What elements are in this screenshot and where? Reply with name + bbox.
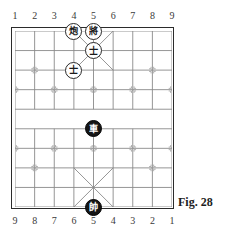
star-point-5 xyxy=(129,91,131,93)
piece-black-general-f5r0[interactable]: 將 xyxy=(85,23,102,40)
piece-glyph-advisor: 士 xyxy=(89,46,98,55)
star-point-3 xyxy=(51,86,53,88)
star-point-4 xyxy=(90,86,92,88)
file-label-bottom-4: 6 xyxy=(67,215,80,227)
star-point-dot-2 xyxy=(15,89,16,91)
star-point-13 xyxy=(149,165,151,167)
piece-advisor-f4r2[interactable]: 士 xyxy=(65,62,82,79)
star-point-9 xyxy=(95,150,97,152)
star-point-dot-7 xyxy=(15,147,16,149)
file-labels-top: 123456789 xyxy=(15,10,172,22)
star-point-11 xyxy=(169,145,171,147)
star-point-8 xyxy=(51,150,53,152)
file-label-bottom-5: 5 xyxy=(87,215,100,227)
file-label-top-4: 4 xyxy=(67,10,80,22)
star-point-0 xyxy=(31,71,33,73)
star-point-dot-11 xyxy=(171,147,172,149)
piece-advisor-f5r1[interactable]: 士 xyxy=(85,42,102,59)
xiangqi-board[interactable]: 炮將士士車帥 xyxy=(15,31,172,207)
star-point-1 xyxy=(154,67,156,69)
file-labels-bottom: 987654321 xyxy=(15,215,172,227)
star-point-13 xyxy=(149,169,151,171)
star-point-2 xyxy=(16,86,18,88)
star-point-10 xyxy=(129,145,131,147)
star-point-3 xyxy=(56,91,58,93)
star-point-1 xyxy=(149,71,151,73)
piece-glyph-chariot: 車 xyxy=(89,124,98,133)
star-point-2 xyxy=(16,91,18,93)
star-point-8 xyxy=(56,145,58,147)
star-point-12 xyxy=(31,165,33,167)
star-point-dot-12 xyxy=(34,167,36,169)
star-point-9 xyxy=(90,145,92,147)
star-point-dot-0 xyxy=(34,69,36,71)
piece-red-marshal-f5r9[interactable]: 帥 xyxy=(85,199,102,216)
star-point-dot-4 xyxy=(92,89,94,91)
star-point-4 xyxy=(95,86,97,88)
star-point-12 xyxy=(31,169,33,171)
star-point-6 xyxy=(169,86,171,88)
file-label-top-7: 7 xyxy=(126,10,139,22)
file-label-bottom-7: 3 xyxy=(126,215,139,227)
file-label-top-8: 8 xyxy=(146,10,159,22)
file-label-top-9: 9 xyxy=(166,10,179,22)
figure-caption: Fig. 28 xyxy=(178,195,213,210)
star-point-3 xyxy=(51,91,53,93)
star-point-0 xyxy=(36,67,38,69)
star-point-6 xyxy=(169,91,171,93)
board-grid-area: 炮將士士車帥 xyxy=(15,31,172,207)
file-label-bottom-9: 1 xyxy=(166,215,179,227)
star-point-5 xyxy=(129,86,131,88)
star-point-dot-6 xyxy=(171,89,172,91)
file-label-top-2: 2 xyxy=(28,10,41,22)
piece-glyph-advisor: 士 xyxy=(69,66,78,75)
file-label-bottom-8: 2 xyxy=(146,215,159,227)
star-point-8 xyxy=(56,150,58,152)
piece-glyph-cannon: 炮 xyxy=(69,26,78,35)
star-point-5 xyxy=(134,86,136,88)
star-point-9 xyxy=(95,145,97,147)
star-point-1 xyxy=(149,67,151,69)
star-point-5 xyxy=(134,91,136,93)
star-point-dot-1 xyxy=(151,69,153,71)
piece-glyph-red-marshal: 帥 xyxy=(89,202,98,211)
star-point-dot-3 xyxy=(53,89,55,91)
star-point-13 xyxy=(154,169,156,171)
star-point-4 xyxy=(95,91,97,93)
star-point-0 xyxy=(31,67,33,69)
star-point-0 xyxy=(36,71,38,73)
file-label-top-3: 3 xyxy=(48,10,61,22)
star-point-1 xyxy=(154,71,156,73)
file-label-bottom-1: 9 xyxy=(9,215,22,227)
star-point-3 xyxy=(56,86,58,88)
star-point-9 xyxy=(90,150,92,152)
star-point-10 xyxy=(134,150,136,152)
star-point-10 xyxy=(129,150,131,152)
star-point-4 xyxy=(90,91,92,93)
piece-cannon-f4r0[interactable]: 炮 xyxy=(65,23,82,40)
file-label-bottom-3: 7 xyxy=(48,215,61,227)
star-point-10 xyxy=(134,145,136,147)
star-point-8 xyxy=(51,145,53,147)
file-label-top-5: 5 xyxy=(87,10,100,22)
piece-glyph-black-general: 將 xyxy=(89,26,98,35)
file-label-top-6: 6 xyxy=(107,10,120,22)
file-label-top-1: 1 xyxy=(9,10,22,22)
star-point-12 xyxy=(36,169,38,171)
xiangqi-figure: 123456789 炮將士士車帥 987654321 Fig. 28 xyxy=(0,0,226,239)
file-label-bottom-6: 4 xyxy=(107,215,120,227)
star-point-dot-13 xyxy=(151,167,153,169)
star-point-dot-10 xyxy=(132,147,134,149)
star-point-dot-8 xyxy=(53,147,55,149)
star-point-dot-5 xyxy=(132,89,134,91)
star-point-7 xyxy=(16,145,18,147)
file-label-bottom-2: 8 xyxy=(28,215,41,227)
star-point-11 xyxy=(169,150,171,152)
star-point-12 xyxy=(36,165,38,167)
star-point-7 xyxy=(16,150,18,152)
star-point-dot-9 xyxy=(92,147,94,149)
star-point-13 xyxy=(154,165,156,167)
